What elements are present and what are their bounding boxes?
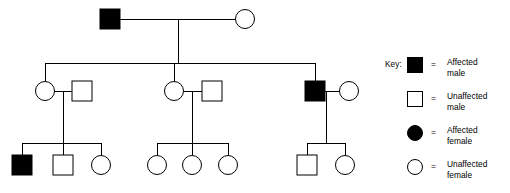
legend-label-line2-2: female [447,136,509,147]
individual-I-2-unaffected-female [236,10,255,29]
legend-label-unaffected-male: Unaffected male [447,91,509,112]
individual-II-4-unaffected-male [202,81,222,101]
legend-label-line1-2: Affected [447,125,509,136]
legend-row-unaffected-female: = Unaffected female [407,157,510,191]
legend-label-affected-female: Affected female [447,125,509,146]
legend: Key: = Affected male = Unaffected male =… [385,55,510,193]
individual-II-6-unaffected-female [340,82,359,101]
legend-title: Key: [385,60,402,69]
individual-II-3-unaffected-female [165,82,184,101]
individual-II-2-unaffected-male [72,81,92,101]
legend-equals-3: = [431,161,436,171]
legend-equals-2: = [431,127,436,137]
individual-III-4-unaffected-female [148,156,167,175]
individual-II-5-affected-male [305,81,325,101]
legend-row-affected-female: = Affected female [407,123,510,157]
individual-III-3-unaffected-female [92,156,111,175]
legend-row-affected-male: = Affected male [407,55,510,89]
affected-female-circle-icon [407,125,423,141]
legend-label-unaffected-female: Unaffected female [447,159,509,180]
individual-III-7-unaffected-male [297,155,317,175]
legend-row-unaffected-male: = Unaffected male [407,89,510,123]
legend-label-line2-0: male [447,68,509,79]
individual-II-1-unaffected-female [36,82,55,101]
individual-I-1-affected-male [100,9,120,29]
affected-male-square-icon [407,57,423,73]
legend-label-line1-1: Unaffected [447,91,509,102]
individual-III-2-unaffected-male [53,155,73,175]
unaffected-male-square-icon [407,91,423,107]
individual-III-1-affected-male [12,155,32,175]
legend-label-line2-1: male [447,102,509,113]
individual-III-5-unaffected-female [183,156,202,175]
connector-lines [22,19,345,155]
legend-label-line1-0: Affected [447,57,509,68]
individual-III-6-unaffected-female [219,156,238,175]
individual-III-8-unaffected-female [336,156,355,175]
unaffected-female-circle-icon [407,159,423,175]
legend-label-line1-3: Unaffected [447,159,509,170]
legend-equals-0: = [431,59,436,69]
legend-equals-1: = [431,93,436,103]
legend-label-affected-male: Affected male [447,57,509,78]
legend-label-line2-3: female [447,170,509,181]
pedigree-chart: Key: = Affected male = Unaffected male =… [0,0,510,193]
